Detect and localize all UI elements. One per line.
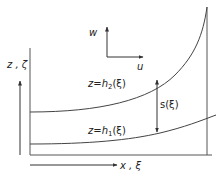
- x-axis-label: x , ξ: [119, 160, 141, 171]
- upper-surface-label-suffix: (ξ): [112, 78, 125, 89]
- lower-surface-label-prefix: z=h: [87, 125, 108, 136]
- w-label: w: [89, 27, 98, 38]
- upper-surface-curve: [30, 7, 207, 112]
- u-label: u: [137, 61, 143, 72]
- lower-surface-label: z=h1(ξ): [87, 125, 126, 138]
- upper-surface-label: z=h2(ξ): [87, 78, 126, 91]
- separation-label: s(ξ): [160, 99, 179, 110]
- channel-diagram: z , ζ x , ξ w u z=h2(ξ) z=h1(ξ) s(ξ): [0, 0, 224, 180]
- lower-surface-label-suffix: (ξ): [112, 125, 125, 136]
- upper-surface-label-prefix: z=h: [87, 78, 108, 89]
- z-axis-label: z , ζ: [6, 59, 28, 70]
